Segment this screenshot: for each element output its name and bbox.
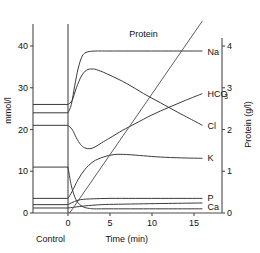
control-region — [33, 104, 68, 208]
annotation-protein: Protein — [129, 29, 158, 39]
series-label: Cl — [207, 121, 216, 131]
labels-group: 01020304001234051015mmol/lProtein (g/l)T… — [3, 29, 253, 244]
x-axis-title: Time (min) — [105, 234, 148, 244]
series-curve — [68, 167, 202, 209]
y2-axis-tick-label: 2 — [227, 125, 232, 135]
y2-axis-tick-label: 1 — [227, 166, 232, 176]
series-label: Na — [207, 47, 219, 57]
series-curve — [68, 203, 202, 208]
x-axis-tick-label: 15 — [189, 218, 199, 228]
y-axis-tick-label: 20 — [18, 125, 28, 135]
y-axis-title: mmol/l — [3, 97, 13, 124]
x-axis-tick-label: 5 — [107, 218, 112, 228]
series-label: Ca — [207, 202, 219, 212]
series-curve — [68, 69, 202, 125]
axes-group — [30, 24, 225, 216]
series-label: K — [207, 153, 213, 163]
y2-axis-tick-label: 0 — [227, 208, 232, 218]
control-region-label: Control — [36, 234, 65, 244]
y-axis-tick-label: 40 — [18, 41, 28, 51]
series-label-subscript: 3 — [224, 93, 228, 100]
y-axis-tick-label: 10 — [18, 166, 28, 176]
series-curve — [68, 154, 202, 198]
curves-group — [68, 21, 202, 213]
y2-axis-tick-label: 3 — [227, 83, 232, 93]
y2-axis-tick-label: 4 — [227, 41, 232, 51]
series-curve — [68, 94, 202, 149]
series-curve — [68, 51, 202, 113]
x-axis-tick-label: 0 — [65, 218, 70, 228]
series-curve — [70, 21, 203, 213]
chart-figure: 01020304001234051015mmol/lProtein (g/l)T… — [0, 0, 260, 253]
y-axis-tick-label: 30 — [18, 83, 28, 93]
y-axis-tick-label: 0 — [23, 208, 28, 218]
x-axis-tick-label: 10 — [147, 218, 157, 228]
y2-axis-title: Protein (g/l) — [243, 101, 253, 148]
chart-canvas: 01020304001234051015mmol/lProtein (g/l)T… — [0, 0, 260, 253]
